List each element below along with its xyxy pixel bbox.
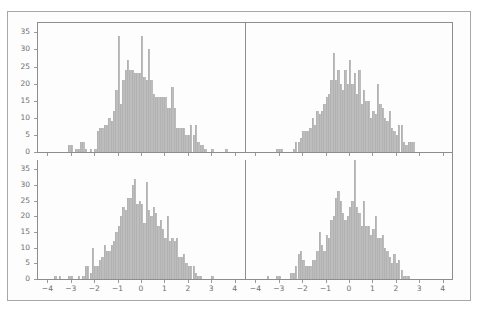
x-tick-label: −3 [267, 285, 291, 293]
y-tick-label: 35 [6, 28, 30, 36]
x-tick-label: 0 [129, 285, 153, 293]
histogram-bars [246, 160, 452, 279]
x-tickmark [279, 153, 280, 156]
x-tick-label: 1 [152, 285, 176, 293]
x-tickmark [211, 280, 212, 283]
x-tick-label: 4 [431, 285, 455, 293]
y-tickmark [34, 49, 37, 50]
y-tick-label: 20 [6, 212, 30, 220]
y-tick-label: 5 [6, 259, 30, 267]
x-tickmark [164, 153, 165, 156]
x-tick-label: −4 [243, 285, 267, 293]
x-tickmark [188, 153, 189, 156]
x-tickmark [71, 280, 72, 283]
y-tick-label: 5 [6, 131, 30, 139]
x-tickmark [302, 280, 303, 283]
y-tickmark [34, 135, 37, 136]
y-tick-label: 15 [6, 228, 30, 236]
x-tickmark [326, 280, 327, 283]
y-axis-spine-top-left [37, 22, 38, 153]
x-tickmark [47, 153, 48, 156]
histogram-bar [412, 142, 414, 152]
y-axis-spine-bottom-left [37, 160, 38, 280]
y-axis-spine-bottom-right [245, 160, 246, 280]
histogram-bars [246, 22, 452, 152]
x-tickmark [47, 280, 48, 283]
x-tickmark [118, 280, 119, 283]
y-tickmark [34, 67, 37, 68]
subplot-bottom-right [246, 160, 452, 279]
y-tickmark [34, 216, 37, 217]
y-tickmark [34, 201, 37, 202]
histogram-bar [71, 145, 73, 152]
x-tickmark [255, 153, 256, 156]
x-tick-label: −2 [82, 285, 106, 293]
x-tickmark [255, 280, 256, 283]
y-tickmark [34, 32, 37, 33]
x-tickmark [326, 153, 327, 156]
y-tick-label: 10 [6, 114, 30, 122]
x-tick-label: −1 [106, 285, 130, 293]
y-tickmark [34, 248, 37, 249]
x-tickmark [141, 153, 142, 156]
x-tickmark [372, 280, 373, 283]
y-tickmark [34, 118, 37, 119]
histogram-figure: 0510152025303505101520253035−4−3−2−10123… [0, 0, 479, 313]
y-tickmark [34, 263, 37, 264]
x-tickmark [94, 280, 95, 283]
x-tick-label: 2 [176, 285, 200, 293]
y-tick-label: 25 [6, 63, 30, 71]
x-tickmark [443, 153, 444, 156]
y-tickmark [34, 185, 37, 186]
x-tick-label: 1 [360, 285, 384, 293]
x-tickmark [396, 153, 397, 156]
x-tickmark [419, 280, 420, 283]
x-tickmark [141, 280, 142, 283]
y-tickmark [34, 169, 37, 170]
y-tickmark [34, 84, 37, 85]
x-tick-label: −2 [290, 285, 314, 293]
x-tick-label: −1 [314, 285, 338, 293]
x-tickmark [396, 280, 397, 283]
subplot-bottom-left [38, 160, 244, 279]
x-tickmark [71, 153, 72, 156]
y-tick-label: 35 [6, 165, 30, 173]
x-tickmark [235, 153, 236, 156]
y-tick-label: 25 [6, 197, 30, 205]
x-tickmark [118, 153, 119, 156]
histogram-bars [38, 160, 244, 279]
y-tick-label: 30 [6, 45, 30, 53]
y-tickmark [34, 152, 37, 153]
y-tickmark [34, 101, 37, 102]
y-tick-label: 20 [6, 80, 30, 88]
x-tickmark [302, 153, 303, 156]
x-tick-label: −3 [59, 285, 83, 293]
y-tickmark [34, 279, 37, 280]
x-tickmark [188, 280, 189, 283]
subplot-top-left [38, 22, 244, 152]
plot-top-spine [38, 22, 453, 23]
x-tick-label: 2 [384, 285, 408, 293]
subplot-top-right [246, 22, 452, 152]
y-tick-label: 30 [6, 181, 30, 189]
y-tick-label: 10 [6, 244, 30, 252]
x-tick-label: 3 [407, 285, 431, 293]
x-tickmark [211, 153, 212, 156]
x-tickmark [443, 280, 444, 283]
y-axis-spine-top-right [245, 22, 246, 153]
x-tickmark [372, 153, 373, 156]
x-tickmark [164, 280, 165, 283]
histogram-bars [38, 22, 244, 152]
x-tick-label: 0 [337, 285, 361, 293]
x-tickmark [349, 280, 350, 283]
y-tickmark [34, 232, 37, 233]
subplot-grid: 0510152025303505101520253035−4−3−2−10123… [0, 0, 479, 313]
y-tick-label: 0 [6, 275, 30, 283]
x-tickmark [235, 280, 236, 283]
x-tick-label: −4 [35, 285, 59, 293]
x-tick-label: 3 [199, 285, 223, 293]
y-tick-label: 0 [6, 148, 30, 156]
y-tick-label: 15 [6, 97, 30, 105]
x-tickmark [419, 153, 420, 156]
x-tickmark [349, 153, 350, 156]
